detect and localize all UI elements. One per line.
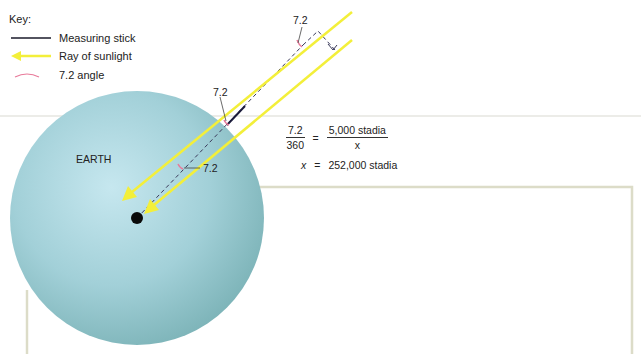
fraction-distance-numerator: 5,000 stadia bbox=[327, 124, 388, 138]
result-equation: x = 252,000 stadia bbox=[301, 159, 397, 171]
equals-sign: = bbox=[313, 132, 319, 144]
leader-top bbox=[298, 27, 302, 43]
measuring-stick-icon bbox=[9, 31, 53, 45]
earth-label: EARTH bbox=[76, 153, 111, 165]
earth-center-dot bbox=[131, 212, 143, 224]
proportion-equation: 7.2 360 = 5,000 stadia x bbox=[286, 124, 388, 151]
result-value: 252,000 stadia bbox=[328, 159, 397, 171]
fraction-distance: 5,000 stadia x bbox=[327, 124, 388, 151]
key-label: 7.2 angle bbox=[59, 69, 104, 81]
key-title: Key: bbox=[9, 13, 31, 25]
fraction-angle-denominator: 360 bbox=[287, 138, 305, 151]
angle-arc-top bbox=[297, 40, 302, 47]
key-item-ray-of-sunlight: Ray of sunlight bbox=[9, 49, 132, 63]
result-equals-sign: = bbox=[314, 159, 320, 171]
key-item-angle: 7.2 angle bbox=[9, 68, 104, 82]
key-label: Measuring stick bbox=[59, 32, 135, 44]
yellow-arrow-icon bbox=[9, 49, 53, 63]
pink-arc-icon bbox=[9, 68, 53, 82]
angle-label-top: 7.2 bbox=[293, 14, 308, 26]
fraction-angle-numerator: 7.2 bbox=[286, 124, 305, 138]
fraction-distance-denominator: x bbox=[355, 138, 360, 151]
frame-top-right-edge bbox=[255, 187, 632, 354]
angle-label-center: 7.2 bbox=[203, 162, 218, 174]
fraction-angle: 7.2 360 bbox=[286, 124, 305, 151]
key-label: Ray of sunlight bbox=[59, 50, 132, 62]
result-variable: x bbox=[301, 159, 306, 171]
key-item-measuring-stick: Measuring stick bbox=[9, 31, 135, 45]
angle-label-surface: 7.2 bbox=[213, 86, 228, 98]
